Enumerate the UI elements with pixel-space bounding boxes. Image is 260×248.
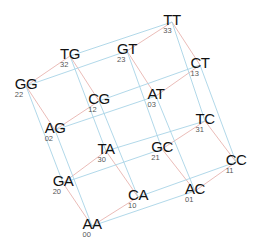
node-code: 23 <box>117 56 137 64</box>
node-code: 33 <box>163 27 180 35</box>
node-ta: TA30 <box>97 141 114 164</box>
node-ga: GA20 <box>53 173 74 196</box>
node-code: 01 <box>185 196 205 204</box>
node-code: 10 <box>128 202 148 210</box>
node-ct: CT13 <box>191 55 210 78</box>
node-tt: TT33 <box>163 12 180 35</box>
node-label: GG <box>15 76 37 91</box>
node-gt: GT23 <box>117 41 137 64</box>
node-code: 03 <box>147 101 164 109</box>
node-code: 22 <box>15 91 37 99</box>
node-label: CG <box>88 91 110 106</box>
node-gg: GG22 <box>15 76 37 99</box>
node-code: 12 <box>88 106 110 114</box>
node-label: TG <box>60 46 80 61</box>
node-code: 32 <box>60 61 80 69</box>
node-code: 02 <box>45 135 66 143</box>
node-label: CC <box>226 152 247 167</box>
node-ca: CA10 <box>128 187 148 210</box>
node-code: 13 <box>191 70 210 78</box>
node-code: 11 <box>226 167 247 175</box>
node-cg: CG12 <box>88 91 110 114</box>
node-tc: TC31 <box>196 111 215 134</box>
node-code: 00 <box>82 231 101 239</box>
edges-layer <box>0 0 260 248</box>
node-gc: GC21 <box>151 139 173 162</box>
node-cc: CC11 <box>226 152 247 175</box>
node-ag: AG02 <box>45 120 66 143</box>
node-code: 31 <box>196 126 215 134</box>
node-label: GT <box>117 41 137 56</box>
node-ac: AC01 <box>185 181 205 204</box>
node-label: GC <box>151 139 173 154</box>
node-label: TA <box>97 141 114 156</box>
node-label: CT <box>191 55 210 70</box>
dinucleotide-hypercube-diagram: TT33GT23CT13AT03TG32GG22CG12AG02TC31GC21… <box>0 0 260 248</box>
node-label: AC <box>185 181 205 196</box>
node-code: 21 <box>151 154 173 162</box>
node-label: GA <box>53 173 74 188</box>
node-at: AT03 <box>147 86 164 109</box>
node-label: AG <box>45 120 66 135</box>
node-code: 20 <box>53 188 74 196</box>
node-label: CA <box>128 187 148 202</box>
node-label: TC <box>196 111 215 126</box>
node-aa: AA00 <box>82 216 101 239</box>
node-label: TT <box>163 12 180 27</box>
node-tg: TG32 <box>60 46 80 69</box>
node-code: 30 <box>97 156 114 164</box>
node-label: AT <box>147 86 164 101</box>
node-label: AA <box>82 216 101 231</box>
